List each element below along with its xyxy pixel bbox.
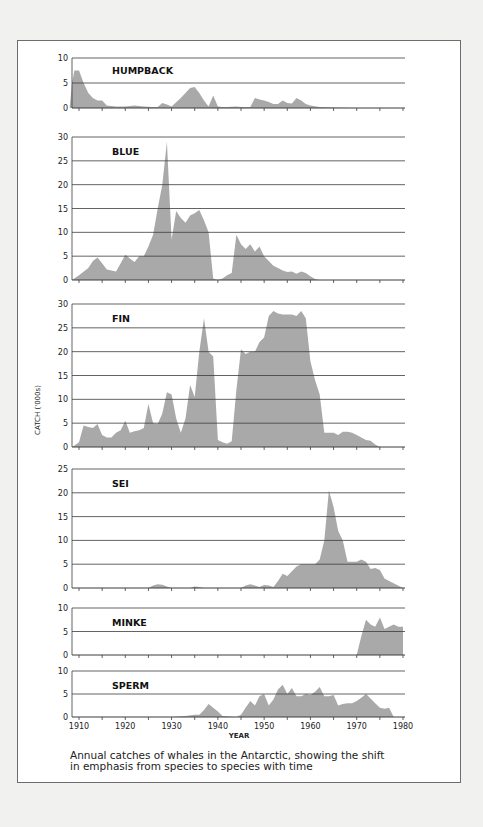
y-axis-title: CATCH ('000s)	[34, 385, 42, 435]
area-humpback	[70, 71, 403, 109]
panel-label-fin: FIN	[112, 313, 130, 324]
panel-label-minke: MINKE	[112, 617, 147, 628]
y-tick-label: 0	[63, 713, 68, 722]
x-tick-label: 1970	[347, 722, 367, 731]
y-tick-label: 0	[63, 443, 68, 452]
y-tick-label: 30	[58, 133, 68, 142]
panel-label-blue: BLUE	[112, 146, 139, 157]
y-tick-label: 5	[63, 419, 68, 428]
y-tick-label: 25	[58, 157, 68, 166]
x-tick-label: 1980	[393, 722, 413, 731]
x-tick-label: 1960	[300, 722, 320, 731]
whale-catch-chart: 0510HUMPBACK051015202530BLUE051015202530…	[0, 0, 483, 827]
y-tick-label: 15	[58, 372, 68, 381]
y-tick-label: 0	[63, 651, 68, 660]
y-tick-label: 10	[58, 395, 68, 404]
area-blue	[70, 142, 403, 280]
y-tick-label: 10	[58, 667, 68, 676]
x-tick-label: 1920	[115, 722, 135, 731]
area-fin	[70, 311, 403, 447]
y-tick-label: 10	[58, 604, 68, 613]
y-tick-label: 20	[58, 348, 68, 357]
figure-caption: Annual catches of whales in the Antarcti…	[70, 750, 450, 772]
y-tick-label: 5	[63, 560, 68, 569]
x-tick-label: 1940	[208, 722, 228, 731]
x-tick-label: 1910	[69, 722, 89, 731]
y-tick-label: 10	[58, 54, 68, 63]
y-tick-label: 5	[63, 252, 68, 261]
panel-label-humpback: HUMPBACK	[112, 65, 174, 76]
y-tick-label: 15	[58, 205, 68, 214]
y-tick-label: 5	[63, 79, 68, 88]
y-tick-label: 0	[63, 584, 68, 593]
y-tick-label: 0	[63, 276, 68, 285]
caption-line-2: in emphasis from species to species with…	[70, 761, 450, 772]
y-tick-label: 15	[58, 513, 68, 522]
x-tick-label: 1930	[161, 722, 181, 731]
y-tick-label: 25	[58, 324, 68, 333]
area-sei	[70, 490, 403, 588]
y-tick-label: 20	[58, 181, 68, 190]
y-tick-label: 5	[63, 690, 68, 699]
y-tick-label: 30	[58, 300, 68, 309]
panel-label-sperm: SPERM	[112, 680, 149, 691]
y-tick-label: 10	[58, 228, 68, 237]
y-tick-label: 5	[63, 628, 68, 637]
panel-label-sei: SEI	[112, 478, 129, 489]
y-tick-label: 0	[63, 104, 68, 113]
x-tick-label: 1950	[254, 722, 274, 731]
y-tick-label: 25	[58, 465, 68, 474]
x-axis-title: YEAR	[228, 732, 250, 740]
y-tick-label: 20	[58, 489, 68, 498]
y-tick-label: 10	[58, 536, 68, 545]
